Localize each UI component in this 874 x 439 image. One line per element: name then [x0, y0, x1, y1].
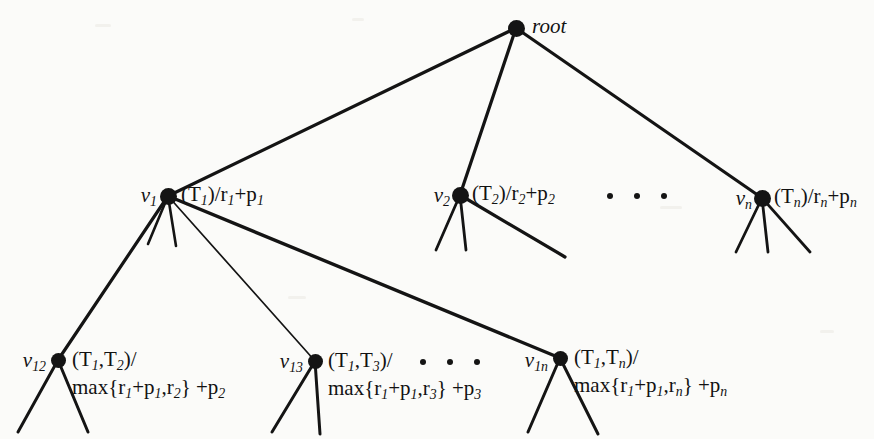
node-v1[interactable]	[160, 188, 177, 205]
node-label-root: root	[532, 15, 566, 39]
ellipsis-dot	[474, 359, 480, 365]
ellipsis-dot	[634, 193, 640, 199]
node-v2[interactable]	[452, 187, 469, 204]
node-vn[interactable]	[754, 190, 771, 207]
node-label-v1: v1	[141, 184, 157, 209]
node-value-v13: (T1,T3)/max{r1+p1,r3} +p3	[328, 349, 481, 403]
paper-speckle	[288, 296, 306, 299]
node-value-v12: (T1,T2)/max{r1+p1,r2} +p2	[72, 348, 225, 402]
node-v13[interactable]	[308, 354, 323, 369]
edge-root-v1	[168, 28, 516, 196]
node-label-v1n: v1n	[525, 349, 548, 374]
node-value-vn: (Tn)/rn+pn	[774, 185, 857, 210]
node-label-v12: v12	[23, 349, 46, 374]
node-root[interactable]	[508, 20, 525, 37]
edge-v1-v12	[58, 196, 168, 360]
ellipsis-dot	[607, 193, 613, 199]
node-v12[interactable]	[51, 353, 66, 368]
edge-v1-v13	[168, 196, 315, 361]
ellipsis-dot	[447, 359, 453, 365]
node-value-v1: (T1)/r1+p1	[181, 183, 264, 208]
tree-diagram-figure: root v1 (T1)/r1+p1 v2 (T2)/r2+p2 vn (Tn)…	[0, 0, 874, 439]
stub-v13-b	[315, 361, 320, 434]
node-label-v13: v13	[280, 350, 303, 375]
paper-speckle	[95, 24, 111, 27]
ellipsis-dot	[661, 193, 667, 199]
ellipsis-dot	[420, 359, 426, 365]
edge-root-v2	[460, 28, 516, 195]
ellipsis-level1	[607, 193, 667, 199]
paper-speckle	[820, 330, 834, 333]
node-value-v2: (T2)/r2+p2	[472, 182, 555, 207]
node-value-v1n: (T1,Tn)/max{r1+p1,rn} +pn	[574, 346, 727, 400]
paper-speckle	[352, 18, 364, 21]
node-label-vn: vn	[736, 187, 752, 212]
paper-speckle	[660, 206, 682, 209]
ellipsis-level2	[420, 359, 480, 365]
node-v1n[interactable]	[553, 351, 568, 366]
node-label-v2: v2	[434, 184, 450, 209]
edge-root-vn	[516, 28, 762, 198]
